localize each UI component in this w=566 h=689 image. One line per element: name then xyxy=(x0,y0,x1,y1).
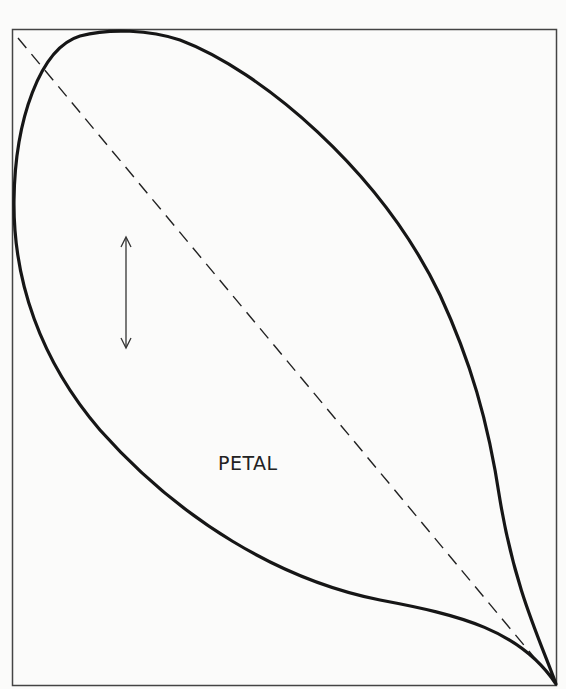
petal-outline xyxy=(14,31,556,684)
petal-pattern-diagram xyxy=(0,0,566,689)
petal-label: PETAL xyxy=(218,452,278,474)
grain-arrow-icon xyxy=(121,237,131,348)
dashed-diagonal xyxy=(18,38,553,680)
